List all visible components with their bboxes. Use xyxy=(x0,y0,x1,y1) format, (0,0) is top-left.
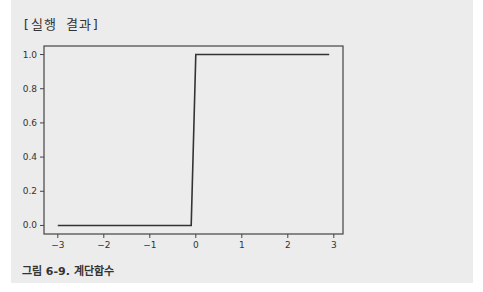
x-axis: −3−2−10123 xyxy=(51,234,337,250)
y-axis: 0.00.20.40.60.81.0 xyxy=(23,50,44,231)
step-chart: −3−2−10123 0.00.20.40.60.81.0 xyxy=(0,0,483,292)
x-tick-label: −3 xyxy=(51,240,64,250)
x-tick-label: 0 xyxy=(193,240,199,250)
y-tick-label: 0.2 xyxy=(23,186,37,196)
y-tick-label: 0.4 xyxy=(23,152,38,162)
y-tick-label: 1.0 xyxy=(23,50,38,60)
x-tick-label: 2 xyxy=(285,240,291,250)
x-tick-label: 1 xyxy=(239,240,245,250)
series-line xyxy=(58,55,329,226)
figure-caption: 그림 6-9. 계단함수 xyxy=(22,262,114,278)
x-tick-label: −2 xyxy=(97,240,110,250)
x-tick-label: 3 xyxy=(331,240,337,250)
y-tick-label: 0.8 xyxy=(23,84,38,94)
series-group xyxy=(58,55,329,226)
y-tick-label: 0.6 xyxy=(23,118,38,128)
x-tick-label: −1 xyxy=(143,240,156,250)
y-tick-label: 0.0 xyxy=(23,220,38,230)
